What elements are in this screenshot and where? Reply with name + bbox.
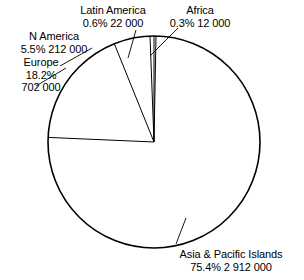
slice-label-asia-pacific: Asia & Pacific Islands 75.4% 2 912 000 [160, 248, 302, 273]
slice-label-asia-pacific-stats: 75.4% 2 912 000 [160, 261, 302, 274]
slice-label-europe-percent: 18.2% [4, 69, 78, 82]
slice-label-africa-stats: 0.3% 12 000 [152, 17, 248, 30]
slice-label-europe-name: Europe [4, 56, 78, 69]
slice-label-africa: Africa 0.3% 12 000 [152, 4, 248, 29]
slice-label-africa-name: Africa [152, 4, 248, 17]
pie-chart-figure: Latin America 0.6% 22 000 Africa 0.3% 12… [0, 0, 304, 280]
slice-label-europe-count: 702 000 [4, 81, 78, 94]
slice-label-europe: Europe 18.2% 702 000 [4, 56, 78, 94]
slice-label-n-america-stats: 5.5% 212 000 [2, 43, 106, 56]
slice-label-n-america-name: N America [2, 30, 106, 43]
slice-label-asia-pacific-name: Asia & Pacific Islands [160, 248, 302, 261]
slice-label-n-america: N America 5.5% 212 000 [2, 30, 106, 55]
